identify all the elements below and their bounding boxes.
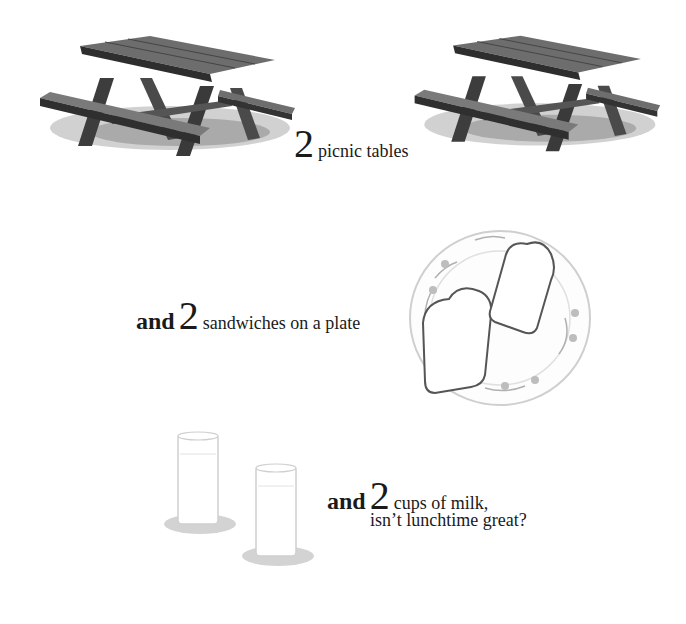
caption-text: picnic tables [318, 141, 408, 161]
milk-glasses-illustration [160, 428, 320, 568]
picnic-table-icon [30, 28, 300, 168]
sandwich-plate-illustration [405, 228, 595, 408]
sandwich-plate-icon [405, 228, 595, 408]
picnic-table-icon [405, 28, 665, 163]
picnic-table-illustration-right [405, 28, 665, 163]
caption-milk-line2: isn’t lunchtime great? [370, 510, 527, 531]
count-number: 2 [294, 121, 314, 166]
picnic-table-illustration-left [30, 28, 300, 168]
caption-picnic-tables: 2 picnic tables [294, 124, 408, 164]
count-number: 2 [179, 293, 199, 338]
milk-glass-icon [160, 428, 320, 568]
caption-text: sandwiches on a plate [203, 313, 360, 333]
caption-sandwiches: and 2 sandwiches on a plate [136, 296, 360, 336]
caption-lead: and [327, 488, 366, 514]
caption-lead: and [136, 308, 175, 334]
